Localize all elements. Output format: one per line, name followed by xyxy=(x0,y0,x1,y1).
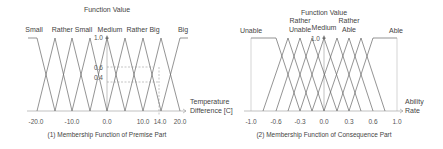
left-ytick-1.0: 1.0 xyxy=(94,34,103,41)
curve-aux-2 xyxy=(288,38,337,111)
right-x-axis-label-1: Ability xyxy=(405,98,424,106)
premise-curves xyxy=(28,38,188,111)
label-rather-small: Rather Small xyxy=(52,26,93,33)
right-xtick: -1.0 xyxy=(245,118,257,125)
label-medium-right: Medium xyxy=(312,24,337,31)
curve-rather-big-b xyxy=(143,38,180,111)
left-xtick: -10.0 xyxy=(65,118,80,125)
label-small: Small xyxy=(25,26,43,33)
left-xtick: 10.0 xyxy=(137,118,150,125)
left-xtick: 14.0 xyxy=(154,118,167,125)
curve-big xyxy=(161,38,188,111)
left-caption: (1) Membership Function of Premise Part xyxy=(48,131,167,139)
right-xtick: 0.0 xyxy=(319,118,328,125)
right-xtick: 0.3 xyxy=(344,118,353,125)
curve-mid-right xyxy=(107,38,143,111)
left-xtick: -20.0 xyxy=(29,118,44,125)
label-rather-unable-1: Rather xyxy=(289,17,311,24)
left-x-axis-label-1: Temperature xyxy=(190,98,229,106)
curve-rather-able xyxy=(324,38,373,111)
left-xtick: 20.0 xyxy=(174,118,187,125)
right-x-axis-label-2: Rate xyxy=(405,107,420,114)
curve-rather-small-a xyxy=(37,38,72,111)
curve-aux-1 xyxy=(263,38,312,111)
curve-small xyxy=(28,38,55,111)
label-rather-able-1: Rather xyxy=(338,17,360,24)
label-able: Able xyxy=(389,27,403,34)
right-xtick: 1.0 xyxy=(392,118,401,125)
right-xtick: 0.6 xyxy=(368,118,377,125)
left-xtick: 0.0 xyxy=(102,118,111,125)
label-rather-big: Rather Big xyxy=(126,26,159,34)
label-medium: Medium xyxy=(98,26,123,33)
curve-rather-small xyxy=(55,38,90,111)
curve-rather-big xyxy=(125,38,161,111)
label-rather-unable-2: Unable xyxy=(289,26,311,33)
premise-membership-chart: Function Value Small Rather Small Medium… xyxy=(25,6,232,139)
label-big: Big xyxy=(178,26,188,34)
right-caption: (2) Membership Function of Consequence P… xyxy=(256,131,391,139)
consequence-membership-chart: Function Value Unable Rather Unable Medi… xyxy=(240,9,424,139)
label-rather-able-2: Able xyxy=(342,26,356,33)
left-y-axis-label: Function Value xyxy=(84,6,130,13)
right-xtick: -0.6 xyxy=(270,118,282,125)
left-ytick-0.6: 0.6 xyxy=(94,64,103,71)
left-x-axis-label-2: Difference [C] xyxy=(190,107,233,115)
right-xtick: -0.3 xyxy=(294,118,306,125)
membership-function-diagrams: Function Value Small Rather Small Medium… xyxy=(0,0,443,149)
label-unable: Unable xyxy=(240,27,262,34)
right-y-axis-label: Function Value xyxy=(301,9,347,16)
